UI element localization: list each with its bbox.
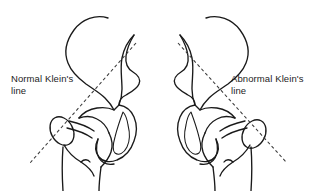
left-physis-lower xyxy=(67,128,92,138)
right-femoral-shaft-lateral xyxy=(213,167,215,191)
abnormal-klein-line-label: Abnormal Klein's line xyxy=(231,73,314,96)
right-femoral-shaft-medial xyxy=(251,147,252,191)
klein-line-figure: Normal Klein's line Abnormal Klein's lin… xyxy=(0,0,314,191)
left-hip-panel xyxy=(30,17,140,191)
left-obturator-foramen xyxy=(113,112,129,154)
left-femoral-shaft-medial xyxy=(62,147,63,191)
left-femoral-head xyxy=(45,113,79,150)
left-lesser-trochanter xyxy=(81,160,90,162)
right-hip-panel xyxy=(174,17,287,191)
right-lesser-trochanter xyxy=(224,160,233,162)
right-obturator-foramen xyxy=(185,112,201,154)
normal-klein-line-label: Normal Klein's line xyxy=(11,73,95,96)
left-femoral-shaft-lateral xyxy=(99,167,101,191)
